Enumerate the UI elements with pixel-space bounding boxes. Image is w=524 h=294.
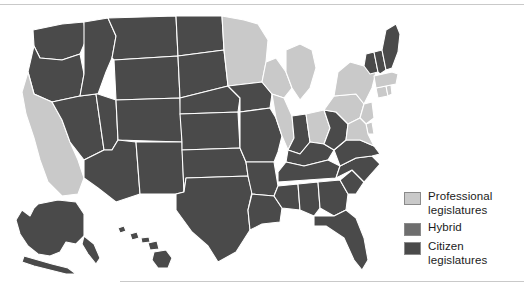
state-minnesota[interactable] [222, 16, 268, 86]
state-hawaii-maui[interactable] [148, 241, 159, 250]
state-florida[interactable] [314, 210, 368, 270]
state-alaska-panhandle[interactable] [82, 236, 100, 264]
state-hawaii-molokai[interactable] [141, 237, 150, 243]
legend-swatch-professional [404, 192, 421, 205]
state-massachusetts[interactable] [374, 72, 398, 88]
legend-swatch-citizen [404, 242, 421, 255]
figure-container: Professional legislatures Hybrid Citizen… [0, 0, 524, 294]
state-new-mexico[interactable] [136, 142, 184, 194]
united-states-map [0, 10, 400, 278]
bottom-divider-rule [120, 281, 524, 282]
state-hawaii-oahu[interactable] [130, 232, 139, 240]
state-maine[interactable] [382, 24, 400, 70]
state-hawaii-big-island[interactable] [152, 250, 172, 268]
state-hawaii-kauai[interactable] [118, 226, 126, 233]
state-alaska[interactable] [16, 200, 84, 256]
legend-swatch-hybrid [404, 223, 421, 236]
legend-item-hybrid[interactable]: Hybrid [404, 221, 520, 236]
state-kansas[interactable] [180, 112, 240, 150]
state-north-dakota[interactable] [176, 16, 224, 56]
legend-label-hybrid: Hybrid [428, 221, 462, 235]
legend-item-professional[interactable]: Professional legislatures [404, 190, 520, 217]
state-arkansas[interactable] [246, 162, 278, 196]
legend: Professional legislatures Hybrid Citizen… [404, 190, 520, 271]
legend-label-citizen: Citizen legislatures [428, 240, 516, 267]
state-montana[interactable] [108, 16, 178, 60]
state-alaska-aleutians[interactable] [22, 256, 76, 274]
state-michigan[interactable] [286, 44, 316, 100]
legend-label-professional: Professional legislatures [428, 190, 516, 217]
legend-item-citizen[interactable]: Citizen legislatures [404, 240, 520, 267]
state-alabama[interactable] [298, 182, 320, 216]
state-colorado[interactable] [116, 98, 182, 142]
top-divider-rule [0, 4, 524, 5]
state-idaho[interactable] [80, 18, 116, 96]
map-container [0, 10, 400, 278]
state-texas[interactable] [176, 176, 252, 262]
state-wyoming[interactable] [114, 56, 180, 100]
